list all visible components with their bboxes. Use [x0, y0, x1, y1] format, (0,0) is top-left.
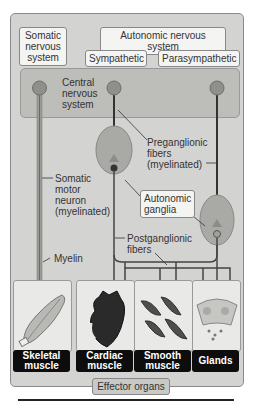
- divider: [18, 399, 234, 401]
- skeletal-muscle-icon: [14, 281, 71, 351]
- organ-label-glands: Glands: [192, 350, 239, 372]
- organ-label-smooth: Smoothmuscle: [134, 350, 191, 372]
- postganglionic-fibers-label: Postganglionic fibers: [127, 233, 192, 255]
- organ-label-skeletal: Skeletalmuscle: [13, 350, 70, 372]
- effector-organs-label: Effector organs: [92, 378, 170, 395]
- heart-icon: [77, 281, 134, 351]
- gland-icon: [193, 281, 240, 351]
- myelin-label: Myelin: [54, 253, 83, 264]
- preganglionic-fibers-label: Preganglionic fibers (myelinated): [147, 137, 208, 170]
- organ-label-cardiac: Cardiacmuscle: [76, 350, 133, 372]
- smooth-muscle-icon: [135, 281, 192, 351]
- organ-panel-smooth: [134, 280, 193, 352]
- autonomic-ganglia-label: Autonomic ganglia: [140, 190, 195, 218]
- organ-panel-skeletal: [13, 280, 72, 352]
- somatic-motor-neuron-label: Somatic motor neuron (myelinated): [55, 173, 110, 217]
- organ-panel-glands: [192, 280, 241, 352]
- organ-panel-cardiac: [76, 280, 135, 352]
